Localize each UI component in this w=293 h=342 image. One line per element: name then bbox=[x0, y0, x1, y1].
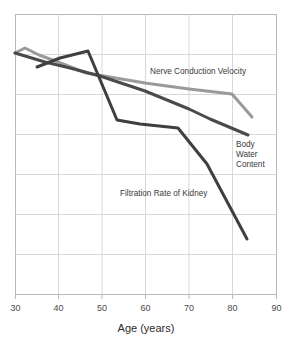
series-label-body-water-content-line1: Body bbox=[236, 140, 256, 149]
x-tick-label-40: 40 bbox=[53, 303, 63, 313]
x-tick-label-30: 30 bbox=[10, 303, 20, 313]
x-tick-label-60: 60 bbox=[140, 303, 150, 313]
x-tick-label-80: 80 bbox=[227, 303, 237, 313]
chart-container: 30 40 50 60 70 80 90 Age (years) Nerve C… bbox=[0, 0, 293, 342]
series-label-nerve-conduction-velocity: Nerve Conduction Velocity bbox=[150, 67, 247, 76]
x-tick-label-70: 70 bbox=[184, 303, 194, 313]
series-label-body-water-content-line3: Content bbox=[236, 160, 265, 169]
line-chart: 30 40 50 60 70 80 90 Age (years) Nerve C… bbox=[0, 0, 293, 342]
series-label-body-water-content-line2: Water bbox=[236, 150, 258, 159]
x-tick-label-90: 90 bbox=[271, 303, 281, 313]
x-tick-label-50: 50 bbox=[97, 303, 107, 313]
chart-background bbox=[0, 0, 293, 342]
x-axis-title: Age (years) bbox=[118, 322, 175, 334]
series-label-filtration-rate-of-kidney: Filtration Rate of Kidney bbox=[120, 189, 208, 198]
